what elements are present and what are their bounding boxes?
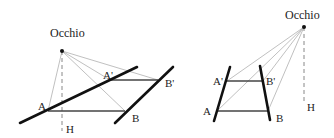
point-label: B bbox=[132, 112, 139, 124]
foot-label-h: H bbox=[66, 123, 74, 135]
point-label: A' bbox=[103, 69, 113, 81]
eye-point-icon bbox=[302, 25, 306, 29]
eye-label: Occhio bbox=[285, 8, 320, 22]
diagram-left: OcchioHAA'B'B bbox=[20, 26, 174, 135]
point-label: A' bbox=[213, 75, 223, 87]
perspective-diagrams: OcchioHAA'B'BOcchioHAA'B'B bbox=[0, 0, 334, 138]
point-label: B' bbox=[266, 75, 275, 87]
eye-point-icon bbox=[60, 49, 64, 53]
sight-ray bbox=[62, 51, 125, 111]
point-label: A bbox=[203, 105, 211, 117]
sight-ray bbox=[263, 27, 304, 81]
thick-line bbox=[20, 67, 137, 123]
point-label: B' bbox=[165, 77, 174, 89]
sight-ray bbox=[48, 51, 62, 111]
eye-label: Occhio bbox=[50, 26, 85, 40]
foot-label-h: H bbox=[307, 101, 315, 113]
diagram-canvas: OcchioHAA'B'BOcchioHAA'B'B bbox=[0, 0, 334, 138]
point-label: B bbox=[276, 112, 283, 124]
point-label: A bbox=[38, 100, 46, 112]
diagram-right: OcchioHAA'B'B bbox=[203, 8, 320, 124]
